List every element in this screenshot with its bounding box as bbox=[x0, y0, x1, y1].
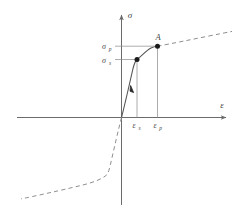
loading-curve-group bbox=[122, 46, 158, 117]
sigma-p-symbol: σ bbox=[102, 42, 107, 51]
sigma-s-tick-label: σ s bbox=[102, 56, 111, 66]
direction-arrow-head bbox=[130, 86, 134, 93]
epsilon-s-tick-label: ε s bbox=[132, 121, 140, 131]
chart-canvas: σ ε σ p σ s ε s ε p A bbox=[0, 0, 246, 222]
point-a-marker bbox=[155, 44, 160, 49]
sigma-s-subscript: s bbox=[109, 60, 111, 66]
compression-branch-dashed bbox=[21, 118, 122, 199]
sigma-p-tick-label: σ p bbox=[102, 42, 112, 52]
yield-point-marker bbox=[135, 57, 140, 62]
axes-group bbox=[17, 15, 226, 205]
sigma-axis-label: σ bbox=[128, 10, 133, 20]
epsilon-s-subscript: s bbox=[138, 125, 140, 131]
sigma-p-subscript: p bbox=[108, 46, 112, 52]
point-a-label: A bbox=[154, 32, 161, 42]
sigma-s-symbol: σ bbox=[102, 56, 107, 65]
epsilon-p-symbol: ε bbox=[153, 121, 157, 130]
epsilon-p-subscript: p bbox=[158, 125, 162, 131]
epsilon-p-tick-label: ε p bbox=[153, 121, 162, 131]
epsilon-s-symbol: ε bbox=[132, 121, 136, 130]
hardening-extension-dashed bbox=[158, 31, 233, 46]
elastic-plastic-curve bbox=[122, 46, 158, 117]
epsilon-axis-label: ε bbox=[220, 100, 224, 110]
stress-strain-figure: σ ε σ p σ s ε s ε p A bbox=[0, 0, 246, 222]
loading-direction-arrow bbox=[130, 86, 134, 93]
